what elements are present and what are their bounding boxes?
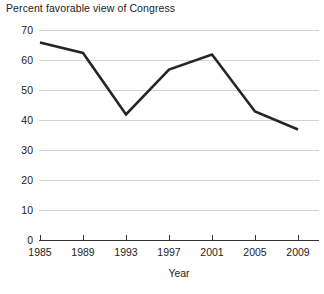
- y-axis-tick-labels: 70 60 50 40 30 20 10 0: [21, 24, 33, 246]
- y-tick-label: 40: [21, 114, 33, 126]
- y-tick-label: 20: [21, 174, 33, 186]
- x-tick-label: 2009: [286, 246, 310, 258]
- x-axis-tick-labels: 1985 1989 1993 1997 2001 2005 2009: [28, 246, 310, 258]
- y-tick-label: 0: [27, 234, 33, 246]
- y-tick-label: 60: [21, 54, 33, 66]
- y-tick-label: 50: [21, 84, 33, 96]
- y-tick-label: 70: [21, 24, 33, 36]
- line-chart-plot: 70 60 50 40 30 20 10 0 1985 1989 1993 19…: [0, 0, 324, 294]
- x-tick-label: 1985: [28, 246, 52, 258]
- x-tick-label: 2001: [200, 246, 224, 258]
- y-tick-label: 30: [21, 144, 33, 156]
- x-tick-label: 1997: [157, 246, 181, 258]
- x-tick-label: 1989: [71, 246, 95, 258]
- x-tick-label: 2005: [243, 246, 267, 258]
- chart-container: Percent favorable view of Congress 70 60…: [0, 0, 324, 294]
- y-tick-label: 10: [21, 204, 33, 216]
- x-axis-tick-marks: [41, 235, 299, 241]
- data-series-line: [40, 43, 298, 130]
- x-axis-title: Year: [168, 267, 190, 279]
- x-tick-label: 1993: [114, 246, 138, 258]
